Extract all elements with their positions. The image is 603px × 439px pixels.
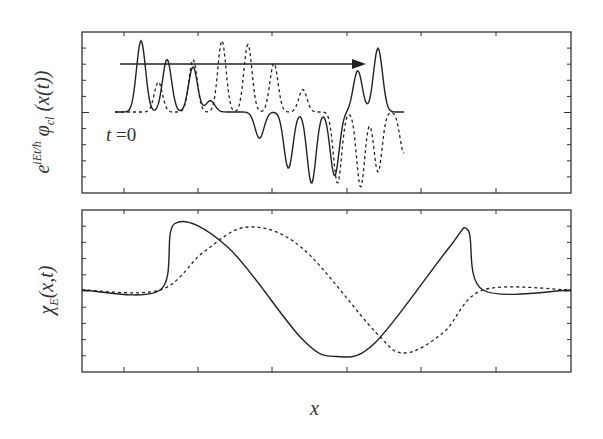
top-panel-frame xyxy=(82,32,571,193)
bottom-y-axis-label: χE(x,t) xyxy=(28,230,68,350)
arrow-head-icon xyxy=(352,59,366,69)
top-y-axis-label: eiEt/ħ φcl (x(t)) xyxy=(24,52,64,192)
time-annotation: t =0 xyxy=(106,124,136,146)
dashed-chi-curve xyxy=(82,227,571,353)
time-arrow xyxy=(120,59,366,69)
bottom-panel-curves xyxy=(82,222,571,358)
x-axis-label: x xyxy=(310,397,319,420)
figure-canvas xyxy=(0,0,603,439)
solid-chi-curve xyxy=(82,222,571,358)
